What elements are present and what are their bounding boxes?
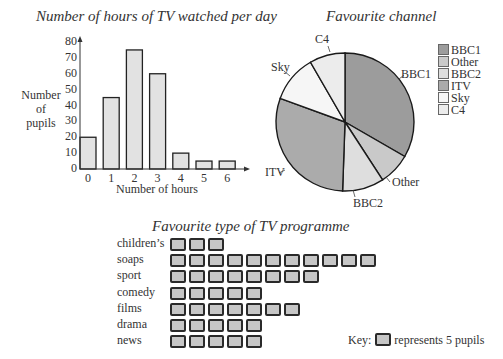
pie-label-c4: C4 <box>315 32 329 47</box>
tv-icon <box>208 303 224 316</box>
tv-icon <box>246 303 262 316</box>
tv-icon <box>208 335 224 348</box>
key-label: Key: <box>348 333 371 347</box>
tv-icon <box>360 254 376 267</box>
tv-icon <box>170 303 186 316</box>
tv-icon <box>189 238 205 251</box>
pie-label-bbc2: BBC2 <box>353 196 383 211</box>
pictogram-row <box>170 335 262 348</box>
pie-label-itv: ITV <box>265 165 285 180</box>
tv-icon <box>227 335 243 348</box>
tv-icon <box>170 254 186 267</box>
tv-icon <box>189 270 205 283</box>
tv-icon <box>170 287 186 300</box>
pie-leader-line <box>386 177 390 182</box>
tv-icon <box>189 303 205 316</box>
tv-icon <box>246 335 262 348</box>
tv-icon <box>208 319 224 332</box>
pictogram-row <box>170 319 262 332</box>
tv-icon <box>189 287 205 300</box>
key-text: represents 5 pupils <box>394 333 484 347</box>
legend-swatch-bbc2 <box>438 68 449 79</box>
tv-icon <box>375 333 391 346</box>
tv-icon <box>265 254 281 267</box>
tv-icon <box>208 270 224 283</box>
tv-icon <box>246 319 262 332</box>
legend-swatch-other <box>438 56 449 67</box>
pictogram-row-label: news <box>117 333 142 348</box>
tv-icon <box>170 270 186 283</box>
legend-swatch-c4 <box>438 104 449 115</box>
pictogram-key: Key:represents 5 pupils <box>348 333 484 348</box>
tv-icon <box>284 270 300 283</box>
legend-swatch-itv <box>438 80 449 91</box>
pictogram-row-label: comedy <box>117 285 155 300</box>
tv-icon <box>189 335 205 348</box>
pictogram-row-label: children’s <box>117 236 164 251</box>
tv-icon <box>170 319 186 332</box>
pictogram-row <box>170 238 224 251</box>
tv-icon <box>170 335 186 348</box>
tv-icon <box>246 287 262 300</box>
tv-icon <box>208 287 224 300</box>
tv-icon <box>322 254 338 267</box>
pictogram-title: Favourite type of TV programme <box>152 218 349 235</box>
tv-icon <box>227 319 243 332</box>
tv-icon <box>265 303 281 316</box>
pictogram-row <box>170 303 300 316</box>
tv-icon <box>246 254 262 267</box>
tv-icon <box>265 270 281 283</box>
tv-icon <box>246 270 262 283</box>
tv-icon <box>208 238 224 251</box>
tv-icon <box>303 254 319 267</box>
pictogram-row <box>170 270 319 283</box>
tv-icon <box>284 254 300 267</box>
tv-icon <box>170 238 186 251</box>
legend-swatch-bbc1 <box>438 44 449 55</box>
tv-icon <box>208 254 224 267</box>
tv-icon <box>284 303 300 316</box>
tv-icon <box>341 254 357 267</box>
pictogram-row-label: soaps <box>117 252 144 267</box>
pictogram-row <box>170 287 262 300</box>
pie-label-sky: Sky <box>271 60 290 75</box>
pictogram-row-label: sport <box>117 268 141 283</box>
tv-icon <box>227 287 243 300</box>
pictogram-row-label: films <box>117 301 142 316</box>
tv-icon <box>227 254 243 267</box>
pictogram-row <box>170 254 376 267</box>
legend-item-c4: C4 <box>438 103 465 117</box>
tv-icon <box>189 319 205 332</box>
pie-label-bbc1: BBC1 <box>401 67 431 82</box>
tv-icon <box>303 270 319 283</box>
legend-swatch-sky <box>438 92 449 103</box>
pie-label-other: Other <box>392 175 419 190</box>
tv-icon <box>227 303 243 316</box>
tv-icon <box>189 254 205 267</box>
pictogram-row-label: drama <box>117 317 147 332</box>
tv-icon <box>227 270 243 283</box>
